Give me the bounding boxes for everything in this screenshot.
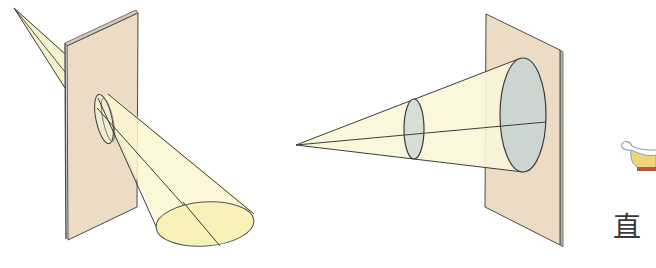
diagram-svg	[0, 0, 656, 268]
left-panel	[14, 8, 255, 249]
conic-sections-figure: 直	[0, 0, 656, 268]
right-panel	[296, 14, 563, 247]
right-plate-circle	[500, 58, 546, 172]
partial-caption-text: 直	[613, 214, 641, 242]
right-small-section	[404, 99, 424, 159]
flask-icon	[622, 142, 656, 171]
